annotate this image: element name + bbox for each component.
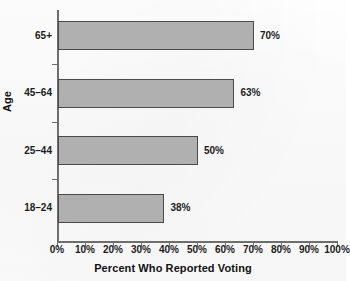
x-tick-label: 60% bbox=[215, 245, 235, 255]
x-tick-label: 100% bbox=[324, 245, 350, 255]
x-tick-label: 0% bbox=[50, 245, 64, 255]
y-minor-tick bbox=[52, 122, 57, 123]
y-axis-title: Age bbox=[1, 91, 13, 112]
x-tick-label: 20% bbox=[103, 245, 123, 255]
y-minor-tick bbox=[52, 64, 57, 65]
bar-value-label: 38% bbox=[170, 203, 190, 213]
x-tick-label: 70% bbox=[243, 245, 263, 255]
x-tick-label: 80% bbox=[271, 245, 291, 255]
bar-value-label: 63% bbox=[240, 88, 260, 98]
x-tick-label: 40% bbox=[159, 245, 179, 255]
bar bbox=[58, 79, 234, 108]
x-axis-title: Percent Who Reported Voting bbox=[0, 262, 346, 274]
bar bbox=[58, 194, 164, 223]
x-tick-label: 30% bbox=[131, 245, 151, 255]
y-minor-tick bbox=[52, 179, 57, 180]
bar-value-label: 70% bbox=[260, 31, 280, 41]
x-tick-label: 10% bbox=[75, 245, 95, 255]
bar bbox=[58, 21, 254, 50]
x-tick-label: 90% bbox=[299, 245, 319, 255]
category-label: 25–44 bbox=[24, 146, 52, 156]
plot-area: 70%63%50%38% bbox=[57, 10, 337, 241]
bar-value-label: 50% bbox=[204, 146, 224, 156]
x-tick-label: 50% bbox=[187, 245, 207, 255]
category-label: 65+ bbox=[35, 31, 52, 41]
category-label: 18–24 bbox=[24, 203, 52, 213]
category-label: 45–64 bbox=[24, 88, 52, 98]
bar bbox=[58, 136, 198, 165]
